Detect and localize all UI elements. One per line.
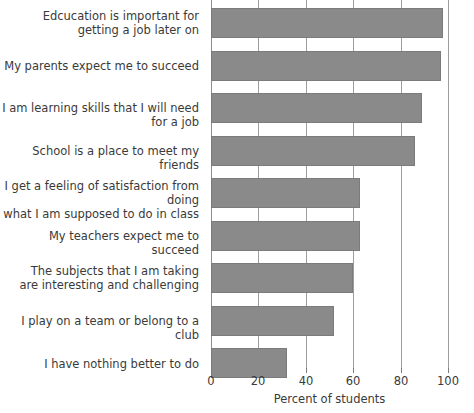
x-tick-label: 100 bbox=[437, 374, 459, 388]
category-label: The subjects that I am taking are intere… bbox=[0, 264, 199, 292]
tick-mark-40 bbox=[306, 368, 307, 373]
x-tick-label: 60 bbox=[346, 374, 361, 388]
tick-mark-60 bbox=[353, 368, 354, 373]
tick-mark-100 bbox=[448, 368, 449, 373]
bar bbox=[211, 306, 334, 336]
x-tick-label: 40 bbox=[299, 374, 314, 388]
x-tick-label: 80 bbox=[394, 374, 409, 388]
x-tick-label: 0 bbox=[207, 374, 214, 388]
bar bbox=[211, 263, 353, 293]
category-label: My teachers expect me to succeed bbox=[0, 229, 199, 257]
bar bbox=[211, 178, 360, 208]
gridline-100 bbox=[448, 0, 449, 368]
x-axis-title: Percent of students bbox=[211, 392, 448, 406]
plot-area: 0 20 40 60 80 100 bbox=[211, 0, 448, 368]
category-label: I get a feeling of satisfaction from doi… bbox=[0, 179, 199, 221]
bar bbox=[211, 8, 443, 38]
category-label: My parents expect me to succeed bbox=[0, 59, 199, 73]
category-label: I am learning skills that I will need fo… bbox=[0, 101, 199, 129]
bar bbox=[211, 136, 415, 166]
bar-chart: Edcucation is important for getting a jo… bbox=[0, 0, 474, 413]
bar bbox=[211, 51, 441, 81]
tick-mark-80 bbox=[401, 368, 402, 373]
category-label: I have nothing better to do bbox=[0, 357, 199, 371]
bar bbox=[211, 348, 287, 378]
category-label: I play on a team or belong to a club bbox=[0, 314, 199, 342]
category-label: Edcucation is important for getting a jo… bbox=[0, 9, 199, 37]
bar bbox=[211, 221, 360, 251]
category-label-group: Edcucation is important for getting a jo… bbox=[0, 0, 205, 368]
bar bbox=[211, 93, 422, 123]
x-tick-label: 20 bbox=[251, 374, 266, 388]
category-label: School is a place to meet my friends bbox=[0, 144, 199, 172]
